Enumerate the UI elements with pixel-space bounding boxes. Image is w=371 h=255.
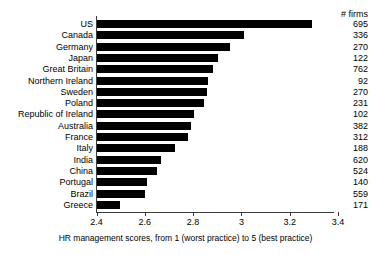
category-label-portugal: Portugal: [0, 177, 93, 188]
x-tick-3-4: [338, 212, 339, 216]
bar-row: China524: [0, 166, 371, 177]
category-label-brazil: Brazil: [0, 189, 93, 200]
category-label-republic-of-ireland: Republic of Ireland: [0, 109, 93, 120]
firms-count-value: 102: [330, 109, 368, 120]
bar-row: France312: [0, 132, 371, 143]
bar-sweden: [97, 88, 207, 96]
firms-count-value: 524: [330, 166, 368, 177]
bar-portugal: [97, 178, 147, 186]
bar-row: Republic of Ireland102: [0, 109, 371, 120]
bar-row: Australia382: [0, 121, 371, 132]
category-label-italy: Italy: [0, 143, 93, 154]
x-tick-label: 2.4: [82, 217, 112, 228]
firms-count-value: 382: [330, 121, 368, 132]
bar-row: Germany270: [0, 42, 371, 53]
bar-row: Poland231: [0, 98, 371, 109]
category-label-france: France: [0, 132, 93, 143]
firms-count-value: 270: [330, 42, 368, 53]
x-tick-2-4: [97, 212, 98, 216]
firms-count-value: 171: [330, 200, 368, 211]
bar-republic-of-ireland: [97, 110, 194, 118]
category-label-sweden: Sweden: [0, 87, 93, 98]
firms-count-value: 620: [330, 155, 368, 166]
y-axis-line: [96, 16, 97, 212]
bar-row: Japan122: [0, 53, 371, 64]
bar-great-britain: [97, 65, 213, 73]
x-axis-line: [96, 212, 334, 213]
bar-japan: [97, 54, 218, 62]
x-tick-3-2: [290, 212, 291, 216]
bar-poland: [97, 99, 204, 107]
x-tick-label: 2.8: [178, 217, 208, 228]
chart-figure: # firms US695Canada336Germany270Japan122…: [0, 0, 371, 255]
bar-row: India620: [0, 155, 371, 166]
firms-count-value: 92: [330, 76, 368, 87]
bar-northern-ireland: [97, 77, 208, 85]
firms-count-value: 270: [330, 87, 368, 98]
category-label-germany: Germany: [0, 42, 93, 53]
bar-china: [97, 167, 157, 175]
category-label-australia: Australia: [0, 121, 93, 132]
bar-france: [97, 133, 188, 141]
bar-brazil: [97, 190, 145, 198]
x-tick-2-8: [193, 212, 194, 216]
x-tick-label: 2.6: [130, 217, 160, 228]
bar-australia: [97, 122, 191, 130]
category-label-northern-ireland: Northern Ireland: [0, 76, 93, 87]
category-label-india: India: [0, 155, 93, 166]
firms-count-value: 762: [330, 64, 368, 75]
firms-count-value: 231: [330, 98, 368, 109]
x-tick-label: 3.2: [275, 217, 305, 228]
bar-us: [97, 20, 312, 28]
category-label-china: China: [0, 166, 93, 177]
bar-row: Great Britain762: [0, 64, 371, 75]
category-label-canada: Canada: [0, 30, 93, 41]
firms-count-value: 188: [330, 143, 368, 154]
category-label-poland: Poland: [0, 98, 93, 109]
bar-row: US695: [0, 19, 371, 30]
firms-count-value: 559: [330, 189, 368, 200]
bar-greece: [97, 201, 120, 209]
bar-row: Italy188: [0, 143, 371, 154]
bar-row: Portugal140: [0, 177, 371, 188]
x-tick-label: 3.4: [323, 217, 353, 228]
firms-count-value: 122: [330, 53, 368, 64]
bar-row: Sweden270: [0, 87, 371, 98]
category-label-japan: Japan: [0, 53, 93, 64]
x-tick-2-6: [145, 212, 146, 216]
firms-count-value: 336: [330, 30, 368, 41]
bar-chart-plot-area: # firms US695Canada336Germany270Japan122…: [0, 0, 371, 255]
x-axis-label: HR management scores, from 1 (worst prac…: [0, 233, 371, 244]
firms-count-value: 312: [330, 132, 368, 143]
category-label-great-britain: Great Britain: [0, 64, 93, 75]
bar-germany: [97, 43, 230, 51]
bar-row: Greece171: [0, 200, 371, 211]
category-label-us: US: [0, 19, 93, 30]
firms-count-value: 140: [330, 177, 368, 188]
bar-row: Canada336: [0, 30, 371, 41]
x-tick-label: 3: [226, 217, 256, 228]
bar-row: Northern Ireland92: [0, 76, 371, 87]
x-tick-3: [241, 212, 242, 216]
firms-count-value: 695: [330, 19, 368, 30]
bar-india: [97, 156, 161, 164]
bar-canada: [97, 31, 244, 39]
category-label-greece: Greece: [0, 200, 93, 211]
bar-italy: [97, 144, 175, 152]
bar-row: Brazil559: [0, 189, 371, 200]
